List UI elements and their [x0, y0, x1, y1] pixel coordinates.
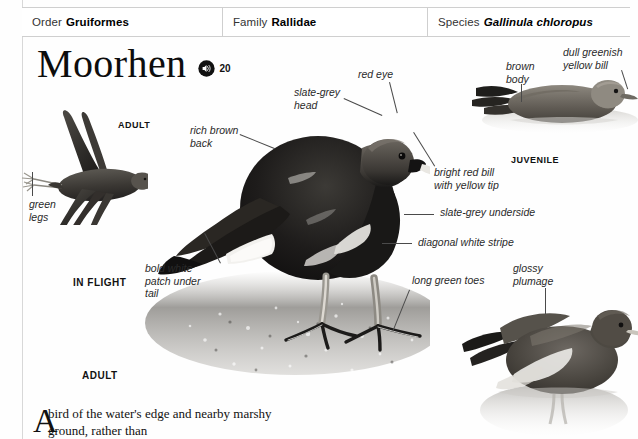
caption-juvenile: JUVENILE: [511, 155, 559, 165]
leader-brown-body: [521, 84, 522, 102]
caption-in-flight: IN FLIGHT: [73, 277, 126, 288]
leader-glossy-plumage: [545, 288, 546, 314]
taxonomy-species-value: Gallinula chloropus: [484, 16, 593, 28]
juvenile-drawing: [470, 58, 638, 146]
label-bright-red-bill: bright red bill with yellow tip: [434, 166, 499, 191]
taxonomy-family-label: Family: [233, 16, 267, 28]
label-brown-body: brown body: [506, 60, 535, 85]
audio-reference[interactable]: 20: [198, 60, 230, 77]
label-slate-grey-head: slate-grey head: [294, 86, 340, 111]
taxonomy-family-cell: Family Rallidae: [222, 8, 427, 36]
taxonomy-order-cell: Order Gruiformes: [22, 8, 222, 36]
adult-swimming-drawing: [458, 282, 638, 439]
taxonomy-species-cell: Species Gallinula chloropus: [427, 8, 630, 36]
label-slate-grey-underside: slate-grey underside: [440, 206, 535, 219]
label-dull-greenish-yellow-bill: dull greenish yellow bill: [563, 46, 623, 71]
illustration-juvenile: [470, 58, 638, 146]
leader-green-legs: [32, 172, 33, 196]
label-rich-brown-back: rich brown back: [190, 124, 238, 149]
leader-diagonal-white-stripe: [382, 243, 412, 244]
label-long-green-toes: long green toes: [412, 274, 484, 287]
taxonomy-family-value: Rallidae: [271, 16, 316, 28]
body-paragraph: bird of the water's edge and nearby mars…: [48, 405, 298, 439]
illustration-adult-standing: [130, 78, 430, 378]
illustration-adult-swimming: [458, 282, 638, 439]
taxonomy-order-label: Order: [32, 16, 62, 28]
taxonomy-species-label: Species: [438, 16, 480, 28]
caption-adult: ADULT: [82, 370, 118, 381]
label-glossy-plumage: glossy plumage: [513, 262, 553, 287]
field-guide-page: Order Gruiformes Family Rallidae Species…: [0, 0, 638, 439]
adult-standing-drawing: [130, 78, 430, 378]
label-green-legs: green legs: [29, 198, 56, 223]
taxonomy-header: Order Gruiformes Family Rallidae Species…: [22, 7, 630, 37]
speaker-icon[interactable]: [198, 60, 215, 77]
leader-slate-grey-underside: [404, 214, 434, 215]
label-red-eye: red eye: [358, 68, 393, 81]
label-bold-white-patch: bold white patch under tail: [145, 262, 200, 300]
audio-track-number: 20: [219, 63, 230, 74]
label-diagonal-white-stripe: diagonal white stripe: [418, 236, 514, 249]
taxonomy-order-value: Gruiformes: [66, 16, 129, 28]
